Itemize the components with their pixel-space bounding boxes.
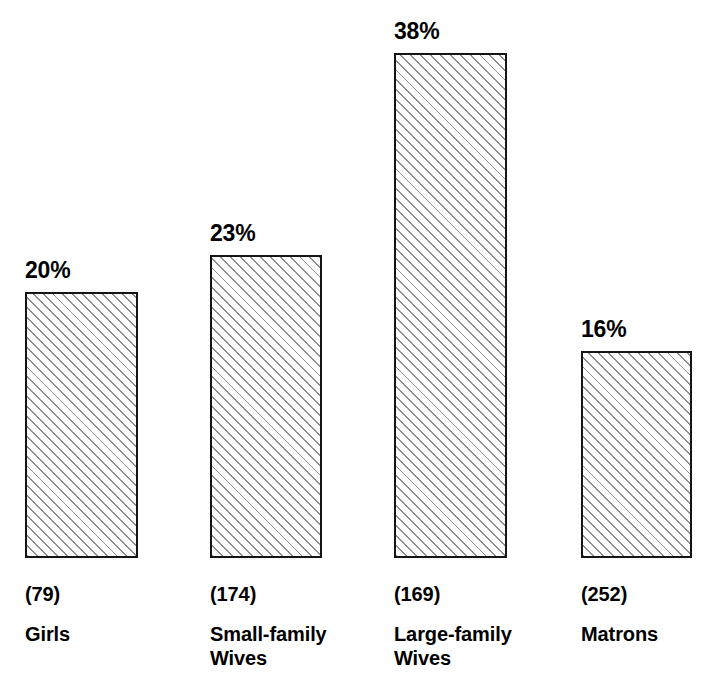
category-count: (169) [394, 584, 512, 604]
category-label-group: (79)Girls [25, 584, 70, 646]
bar [25, 292, 138, 558]
category-name-line: Small-family [210, 622, 327, 646]
category-count: (174) [210, 584, 327, 604]
category-label-group: (169)Large-familyWives [394, 584, 512, 671]
category-name-line: Girls [25, 622, 70, 646]
category-count: (79) [25, 584, 70, 604]
category-label-group: (252)Matrons [581, 584, 658, 646]
category-count: (252) [581, 584, 658, 604]
category-name-line: Large-family [394, 622, 512, 646]
bar-value-label: 38% [394, 20, 439, 43]
category-name-line: Matrons [581, 622, 658, 646]
bar-value-label: 16% [581, 318, 626, 341]
bar [581, 351, 692, 558]
category-name-line: Wives [210, 646, 327, 670]
bar-value-label: 20% [25, 259, 70, 282]
category-name-line: Wives [394, 646, 512, 670]
category-name: Small-familyWives [210, 622, 327, 671]
category-label-group: (174)Small-familyWives [210, 584, 327, 671]
category-name: Girls [25, 622, 70, 646]
category-name: Large-familyWives [394, 622, 512, 671]
bar [394, 53, 507, 558]
bar-value-label: 23% [210, 222, 255, 245]
bar-chart: 20%(79)Girls23%(174)Small-familyWives38%… [0, 0, 708, 690]
bar [210, 255, 322, 558]
category-name: Matrons [581, 622, 658, 646]
